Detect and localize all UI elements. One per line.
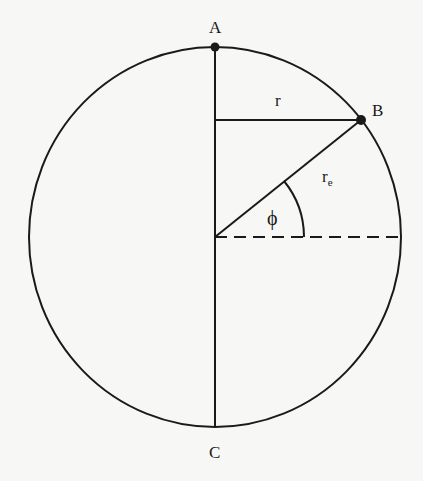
label-phi: ϕ xyxy=(267,207,278,230)
diagram-canvas: A B C r re ϕ xyxy=(0,0,423,481)
point-A xyxy=(211,43,220,52)
label-A: A xyxy=(209,18,222,37)
label-C: C xyxy=(209,443,220,462)
label-B: B xyxy=(372,101,383,120)
label-r: r xyxy=(275,91,281,110)
angle-arc-phi xyxy=(284,181,304,237)
radius-re xyxy=(215,120,361,237)
point-B xyxy=(356,115,366,125)
label-re: re xyxy=(322,167,333,188)
label-re-subscript: e xyxy=(328,176,333,188)
